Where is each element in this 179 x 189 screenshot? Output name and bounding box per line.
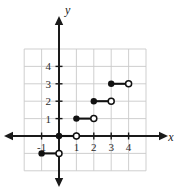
y-tick-label: 3 <box>46 78 52 90</box>
y-tick-label: 2 <box>46 95 52 107</box>
y-axis-name: y <box>64 3 71 17</box>
open-endpoint-circle <box>56 150 62 156</box>
open-endpoint-circle <box>91 116 97 122</box>
x-tick-label: 1 <box>74 141 80 153</box>
figure-background <box>0 0 179 189</box>
closed-endpoint-dot <box>91 98 97 104</box>
coordinate-plane-svg: 1234-11234 yx <box>0 0 179 189</box>
y-tick-label: 1 <box>46 113 52 125</box>
x-tick-label: 3 <box>108 141 114 153</box>
open-endpoint-circle <box>126 81 132 87</box>
y-tick-label: 4 <box>46 60 52 72</box>
graph-figure: 1234-11234 yx <box>0 0 179 189</box>
x-tick-label: 2 <box>91 141 97 153</box>
closed-endpoint-dot <box>56 133 62 139</box>
closed-endpoint-dot <box>108 81 114 87</box>
x-axis-name: x <box>167 130 174 144</box>
open-endpoint-circle <box>108 98 114 104</box>
open-endpoint-circle <box>73 133 79 139</box>
x-tick-label: 4 <box>126 141 132 153</box>
closed-endpoint-dot <box>38 150 44 156</box>
closed-endpoint-dot <box>73 115 79 121</box>
